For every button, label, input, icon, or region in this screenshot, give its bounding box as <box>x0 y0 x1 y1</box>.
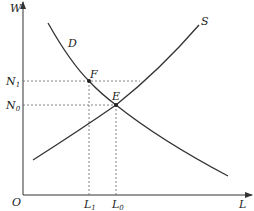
l0-label: L0 <box>111 198 124 211</box>
origin-label: O <box>12 196 21 209</box>
x-axis-label: L <box>238 198 246 211</box>
n1-label: N1 <box>5 75 20 89</box>
y-axis-label: W <box>10 2 23 15</box>
point-f-label: F <box>89 68 98 81</box>
demand-label: D <box>67 37 77 50</box>
point-e-marker <box>114 103 118 107</box>
n0-label: N0 <box>5 99 21 113</box>
l1-label: L1 <box>83 198 96 211</box>
supply-demand-diagram: W L O D S F E N1 N0 L1 L0 <box>0 0 254 211</box>
supply-label: S <box>201 15 209 28</box>
point-e-label: E <box>111 90 120 103</box>
